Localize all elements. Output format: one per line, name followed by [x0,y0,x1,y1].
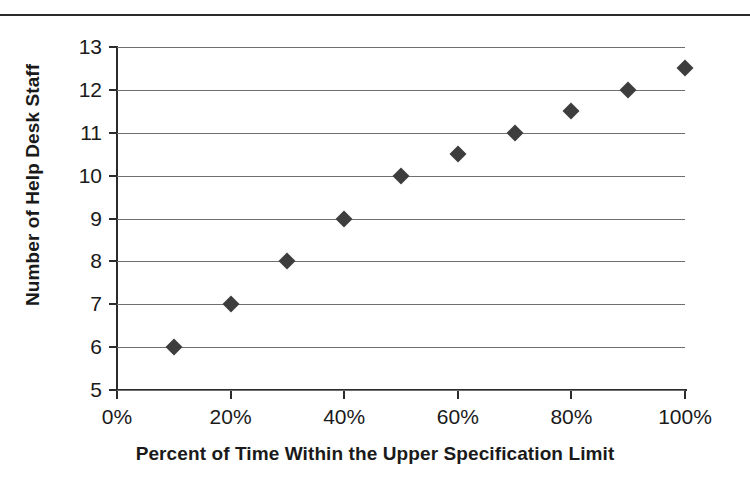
data-point-marker [279,253,296,270]
x-tick-label-20: 20% [171,406,291,427]
top-divider-rule [0,14,750,16]
y-tick-mark-6 [109,346,117,348]
data-point-marker [506,124,523,141]
gridline-y-13 [117,47,685,48]
x-tick-mark-0 [116,390,118,399]
plot-area [117,47,685,390]
x-tick-label-60: 60% [398,406,518,427]
data-point-marker [165,339,182,356]
data-point-marker [563,103,580,120]
x-tick-mark-40 [343,390,345,399]
y-tick-label-7: 7 [17,293,102,314]
data-point-marker [393,167,410,184]
gridline-y-12 [117,90,685,91]
data-point-marker [222,296,239,313]
y-tick-label-9: 9 [17,208,102,229]
y-tick-mark-9 [109,218,117,220]
gridline-y-8 [117,261,685,262]
y-tick-mark-8 [109,260,117,262]
gridline-y-7 [117,304,685,305]
y-tick-mark-13 [109,46,117,48]
x-tick-label-40: 40% [284,406,404,427]
gridline-y-11 [117,133,685,134]
y-tick-label-6: 6 [17,336,102,357]
y-tick-mark-12 [109,89,117,91]
x-axis-title: Percent of Time Within the Upper Specifi… [0,443,750,465]
x-tick-mark-20 [230,390,232,399]
gridline-y-6 [117,347,685,348]
y-tick-mark-7 [109,303,117,305]
y-tick-label-12: 12 [17,79,102,100]
y-tick-label-5: 5 [17,379,102,400]
x-tick-mark-60 [457,390,459,399]
y-tick-label-11: 11 [17,122,102,143]
chart-figure: Number of Help Desk Staff 5678910111213 … [0,0,750,485]
x-tick-mark-100 [684,390,686,399]
gridline-y-5 [117,390,685,391]
data-point-marker [336,210,353,227]
x-tick-label-100: 100% [625,406,745,427]
data-point-marker [449,146,466,163]
y-tick-mark-11 [109,132,117,134]
y-tick-mark-10 [109,175,117,177]
x-tick-label-0: 0% [57,406,177,427]
y-tick-label-13: 13 [17,36,102,57]
data-point-marker [677,60,694,77]
y-tick-label-10: 10 [17,165,102,186]
data-point-marker [620,81,637,98]
gridline-y-9 [117,219,685,220]
x-tick-mark-80 [570,390,572,399]
y-tick-label-8: 8 [17,250,102,271]
x-tick-label-80: 80% [511,406,631,427]
